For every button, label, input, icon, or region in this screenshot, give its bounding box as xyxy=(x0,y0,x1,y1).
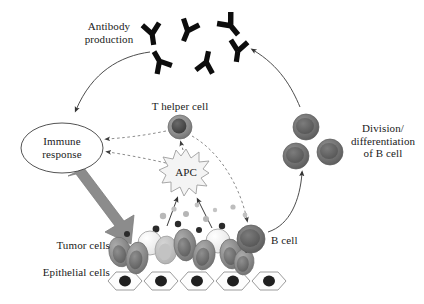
label-apc: APC xyxy=(167,166,205,179)
label-b-cell: B cell xyxy=(271,234,298,247)
label-division-differentiation: Division/ differentiation of B cell xyxy=(344,122,422,160)
division-bcell-1 xyxy=(293,114,319,140)
division-bcell-cluster xyxy=(283,114,343,169)
division-bcell-3 xyxy=(317,139,343,165)
epithelial-cell-sheet xyxy=(108,272,286,290)
epithelial-5 xyxy=(252,272,286,290)
antibody-6 xyxy=(228,40,248,63)
epithelial-2 xyxy=(144,272,178,290)
antibody-5 xyxy=(196,49,217,73)
label-epithelial-cells: Epithelial cells xyxy=(10,266,110,279)
immune-response-diagram: Antibody production T helper cell APC Im… xyxy=(0,0,424,304)
label-immune-response: Immune response xyxy=(27,135,97,160)
b-cell xyxy=(237,225,265,253)
antibody-4 xyxy=(147,47,172,74)
division-bcell-2 xyxy=(283,143,309,169)
label-tumor-cells: Tumor cells xyxy=(28,239,110,252)
antibody-3 xyxy=(217,12,245,40)
t-helper-cell xyxy=(168,115,192,139)
epithelial-1 xyxy=(108,272,142,290)
antibody-1 xyxy=(142,23,162,46)
epithelial-3 xyxy=(180,272,214,290)
antibody-2 xyxy=(176,18,200,44)
label-antibody-production: Antibody production xyxy=(74,20,144,45)
label-t-helper-cell: T helper cell xyxy=(139,100,221,113)
antibody-group xyxy=(142,12,247,74)
